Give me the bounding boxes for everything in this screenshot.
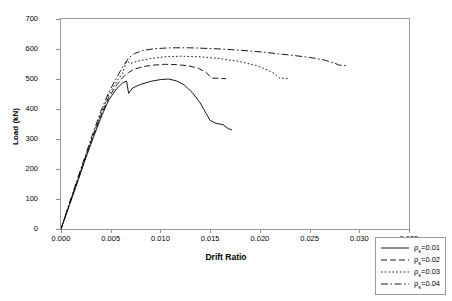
x-tick-label: 0.025 (290, 234, 330, 243)
y-tick-label: 300 (8, 134, 38, 143)
legend-item: ρs=0.02 (380, 254, 440, 266)
series-line-rho=0.02 (61, 64, 226, 229)
x-tick-label: 0.000 (41, 234, 81, 243)
series-line-rho=0.04 (61, 48, 347, 229)
legend-label: ρs=0.02 (414, 255, 440, 266)
y-tick-label: 600 (8, 44, 38, 53)
legend-key-rho=0.02 (380, 255, 410, 265)
legend-key-rho=0.03 (380, 267, 410, 277)
x-tick-label: 0.005 (91, 234, 131, 243)
legend-item: ρs=0.04 (380, 278, 440, 290)
x-tick-label: 0.015 (190, 234, 230, 243)
y-tick-label: 100 (8, 194, 38, 203)
legend: ρs=0.01ρs=0.02ρs=0.03ρs=0.04 (375, 237, 446, 295)
legend-item: ρs=0.01 (380, 242, 440, 254)
series-line-rho=0.03 (61, 56, 290, 229)
y-tick-label: 0 (8, 224, 38, 233)
series-line-rho=0.01 (61, 79, 232, 229)
legend-key-rho=0.04 (380, 279, 410, 289)
plot-area (60, 18, 410, 230)
legend-label: ρs=0.04 (414, 279, 440, 290)
legend-label: ρs=0.01 (414, 243, 440, 254)
legend-label: ρs=0.03 (414, 267, 440, 278)
y-tick-label: 200 (8, 164, 38, 173)
legend-key-rho=0.01 (380, 243, 410, 253)
chart-container: Load (kN) 0100200300400500600700 0.0000.… (0, 0, 452, 301)
x-tick-label: 0.010 (140, 234, 180, 243)
series-lines (61, 19, 409, 229)
x-tick-label: 0.020 (240, 234, 280, 243)
y-tick-label: 700 (8, 14, 38, 23)
x-tick-label: 0.030 (339, 234, 379, 243)
y-tick-label: 400 (8, 104, 38, 113)
y-tick-label: 500 (8, 74, 38, 83)
legend-item: ρs=0.03 (380, 266, 440, 278)
